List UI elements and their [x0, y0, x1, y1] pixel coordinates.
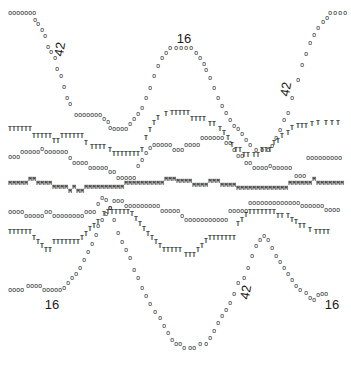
plot-glyph: T — [324, 119, 328, 127]
plot-glyph: T — [302, 222, 306, 230]
plot-glyph: o — [124, 246, 128, 254]
plot-glyph: o — [140, 104, 144, 112]
plot-glyph: T — [148, 126, 152, 134]
plot-glyph: o — [333, 9, 337, 17]
plot-glyph: o — [198, 340, 202, 348]
plot-glyph: o — [82, 256, 86, 264]
plot-glyph: o — [94, 231, 98, 239]
plot-glyph: o — [140, 156, 144, 164]
plot-glyph: o — [212, 84, 216, 92]
plot-glyph: o — [270, 244, 274, 252]
plot-glyph: T — [144, 134, 148, 142]
plot-glyph: o — [62, 83, 66, 91]
plot-glyph: o — [196, 141, 200, 149]
curve-label: 42 — [277, 81, 294, 98]
plot-glyph: o — [212, 327, 216, 335]
plot-glyph: T — [96, 218, 100, 226]
plot-glyph: T — [330, 119, 334, 127]
plot-glyph: T — [308, 226, 312, 234]
plot-glyph: o — [92, 208, 96, 216]
plot-glyph: o — [136, 274, 140, 282]
plot-glyph: o — [208, 74, 212, 82]
plot-glyph: o — [112, 216, 116, 224]
plot-glyph: o — [282, 116, 286, 124]
plot-glyph: o — [300, 61, 304, 69]
plot-glyph: o — [216, 319, 220, 327]
plot-glyph: o — [312, 31, 316, 39]
plot-glyph: T — [304, 122, 308, 130]
plot-glyph: o — [59, 72, 63, 80]
plot-glyph: T — [310, 120, 314, 128]
plot-glyph: o — [338, 9, 342, 17]
curve-label: 16 — [45, 297, 59, 312]
series-curve-16-bottom: oooooooooooooooooooooooooooooooooooooooo… — [8, 204, 328, 352]
plot-glyph: T — [84, 139, 88, 147]
plot-glyph: o — [148, 84, 152, 92]
plot-glyph: M — [340, 179, 344, 186]
plot-glyph: T — [202, 115, 206, 123]
plot-glyph: o — [144, 292, 148, 300]
plot-glyph: o — [78, 264, 82, 272]
plot-glyph: T — [102, 143, 106, 151]
plot-glyph: o — [148, 300, 152, 308]
plot-glyph: T — [268, 146, 272, 154]
plot-glyph: o — [152, 72, 156, 80]
plot-glyph: T — [246, 151, 250, 159]
plot-glyph: o — [338, 154, 342, 162]
plot-glyph: o — [250, 252, 254, 260]
plot-glyph: T — [178, 246, 182, 254]
plot-glyph: o — [246, 264, 250, 272]
plot-glyph: T — [326, 228, 330, 236]
plot-glyph: o — [86, 248, 90, 256]
plot-glyph: o — [266, 236, 270, 244]
plot-glyph: o — [120, 238, 124, 246]
plot-glyph: o — [153, 308, 157, 316]
plot-glyph: o — [192, 344, 196, 352]
plot-glyph: o — [328, 9, 332, 17]
plot-glyph: o — [286, 109, 290, 117]
plot-glyph: T — [290, 124, 294, 132]
plot-glyph: o — [308, 39, 312, 47]
plot-glyph: o — [116, 229, 120, 237]
plot-glyph: o — [20, 286, 24, 294]
plot-glyph: T — [156, 114, 160, 122]
plot-glyph: T — [212, 120, 216, 128]
curve-label: 42 — [51, 41, 68, 58]
plot-glyph: o — [288, 164, 292, 172]
curve-label: 16 — [177, 31, 191, 46]
plot-glyph: o — [156, 62, 160, 70]
plot-glyph: T — [164, 110, 168, 118]
plot-glyph: T — [280, 212, 284, 220]
plot-glyph: T — [316, 119, 320, 127]
plot-glyph: o — [216, 94, 220, 102]
plot-glyph: o — [343, 9, 347, 17]
plot-glyph: o — [182, 344, 186, 352]
plot-glyph: T — [280, 132, 284, 140]
plot-glyph: o — [144, 94, 148, 102]
plot-glyph: T — [48, 246, 52, 254]
plot-glyph: o — [43, 32, 47, 40]
plot-glyph: o — [204, 66, 208, 74]
plot-glyph: T — [336, 119, 340, 127]
plot-glyph: T — [232, 234, 236, 242]
plot-glyph: o — [168, 44, 172, 52]
plot-glyph: o — [228, 299, 232, 307]
plot-glyph: o — [132, 266, 136, 274]
plot-glyph: o — [108, 204, 112, 212]
plot-glyph: o — [316, 24, 320, 32]
plot-glyph: o — [296, 76, 300, 84]
plot-glyph: o — [248, 141, 252, 149]
plot-glyph: o — [298, 286, 302, 294]
plot-glyph: o — [158, 314, 162, 322]
plot-glyph: o — [128, 254, 132, 262]
plot-glyph: o — [224, 306, 228, 314]
plot-glyph: o — [90, 240, 94, 248]
plot-glyph: o — [68, 100, 72, 108]
plot-glyph: o — [140, 284, 144, 292]
curve-label: 16 — [325, 297, 339, 312]
plot-glyph: o — [304, 50, 308, 58]
plot-glyph: o — [104, 196, 108, 204]
plot-glyph: o — [224, 216, 228, 224]
plot-glyph: o — [232, 290, 236, 298]
plot-glyph: o — [244, 207, 248, 215]
